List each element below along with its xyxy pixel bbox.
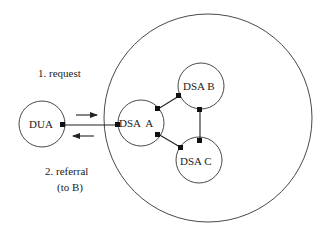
node-dsa-c[interactable]: DSA C (176, 137, 222, 183)
dsa-b-label: DSA B (183, 80, 215, 92)
request-label: 1. request (38, 67, 81, 79)
edge-dsa-a-dsa-c (158, 134, 180, 147)
port-dsa-a-ne (155, 106, 160, 111)
port-dua (60, 122, 65, 127)
referral-diagram: DUA DSA A DSA B DSA C 1. request 2. refe… (0, 0, 324, 239)
dua-label: DUA (29, 118, 53, 130)
dsa-a-label: DSA A (119, 117, 153, 129)
node-dua[interactable]: DUA (19, 101, 65, 147)
port-dsa-c-north (197, 138, 202, 143)
port-dsa-b-south (197, 107, 202, 112)
edge-dsa-a-dsa-b (158, 96, 179, 109)
dsa-c-label: DSA C (180, 155, 212, 167)
node-dsa-b[interactable]: DSA B (178, 63, 224, 109)
port-dsa-c-nw (178, 145, 183, 150)
port-dsa-a-west (115, 122, 120, 127)
referral-label-line1: 2. referral (45, 165, 88, 177)
port-dsa-b-sw (176, 93, 181, 98)
port-dsa-a-se (155, 132, 160, 137)
referral-label-line2: (to B) (57, 181, 83, 194)
